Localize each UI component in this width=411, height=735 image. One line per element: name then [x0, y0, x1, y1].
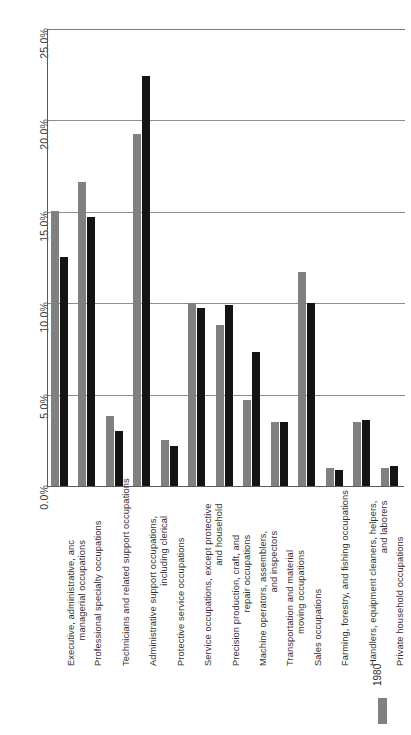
- bar-group: [103, 28, 130, 486]
- bar-group: [295, 28, 322, 486]
- bar-group: [378, 28, 405, 486]
- bar-chart: 25.0% 20.0% 15.0% 10.0% 5.0% 0.0% Execut…: [0, 0, 411, 735]
- bar-group: [213, 28, 240, 486]
- bar-1980: [106, 416, 114, 486]
- bar-group: [323, 28, 350, 486]
- bar-group: [185, 28, 212, 486]
- bar-1990: [307, 303, 315, 486]
- bar-1990: [390, 466, 398, 486]
- x-axis-label: Machine operators, assemblers,and inspec…: [258, 531, 280, 666]
- bar-1990: [142, 76, 150, 486]
- bar-1980: [326, 468, 334, 486]
- legend-label-1980: 1980: [372, 664, 383, 686]
- bar-1980: [353, 422, 361, 486]
- x-axis-labels: Executive, administrative, ancmanagerial…: [47, 490, 404, 670]
- bar-1980: [161, 440, 169, 486]
- bar-1980: [78, 182, 86, 486]
- bar-1980: [271, 422, 279, 486]
- x-axis-label: Sales occupations: [313, 589, 324, 666]
- bar-1990: [170, 446, 178, 486]
- bar-group: [48, 28, 75, 486]
- bar-1990: [280, 422, 288, 486]
- bar-group: [158, 28, 185, 486]
- x-axis-label: Service occupations, except protectivean…: [203, 504, 225, 666]
- legend-swatch-1980: [378, 698, 387, 724]
- bar-1980: [381, 468, 389, 486]
- bar-1990: [60, 257, 68, 486]
- bar-1980: [188, 303, 196, 486]
- x-axis-label: Transportation and materialmoving occupa…: [285, 550, 307, 666]
- bar-group: [350, 28, 377, 486]
- x-axis-label: Administrative support occupations,inclu…: [148, 516, 170, 666]
- bar-1990: [87, 217, 95, 486]
- bar-1980: [298, 272, 306, 486]
- x-axis-label: Technicians and related support occupati…: [121, 478, 132, 666]
- bar-1990: [252, 352, 260, 486]
- x-axis-label: Protective service occupations: [176, 537, 187, 666]
- bar-1990: [335, 470, 343, 486]
- bar-group: [240, 28, 267, 486]
- x-axis-label: Farming, forestry, and fishing occupatio…: [340, 490, 351, 666]
- bar-series-container: [48, 28, 405, 486]
- bar-group: [75, 28, 102, 486]
- bar-1990: [362, 420, 370, 486]
- bar-group: [130, 28, 157, 486]
- bar-1980: [216, 325, 224, 486]
- x-axis-label: Professional specialty occupations: [93, 520, 104, 666]
- bar-1980: [133, 134, 141, 486]
- x-axis-label: Executive, administrative, ancmanagerial…: [66, 540, 88, 666]
- bar-1990: [197, 308, 205, 486]
- bar-1980: [51, 211, 59, 486]
- chart-legend: 1980: [358, 640, 410, 735]
- bar-1990: [225, 305, 233, 486]
- bar-1980: [243, 400, 251, 486]
- bar-group: [268, 28, 295, 486]
- x-axis-label: Precision production, craft, andrepair o…: [231, 535, 253, 666]
- plot-area: [47, 29, 404, 487]
